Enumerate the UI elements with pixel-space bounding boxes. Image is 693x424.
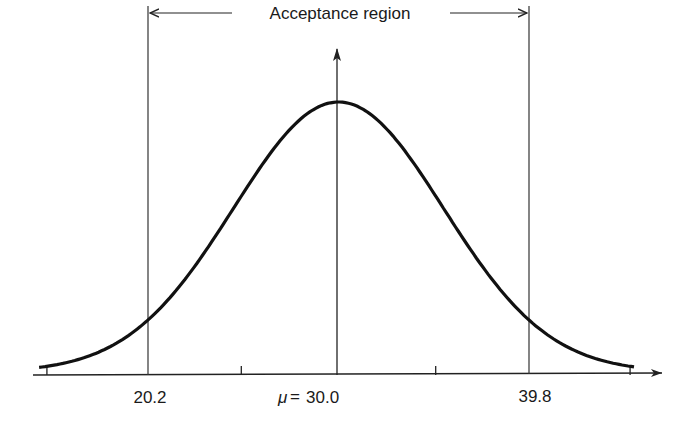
mean-label: μ = 30.0 (277, 387, 339, 407)
lower-bound-label: 20.2 (133, 388, 166, 407)
mean-equals: = (290, 387, 300, 406)
normal-distribution-chart: Acceptance region 20.2 μ = 30.0 39.8 (0, 0, 693, 424)
acceptance-region-label: Acceptance region (270, 4, 411, 23)
mean-value: 30.0 (306, 388, 339, 407)
upper-bound-label: 39.8 (518, 387, 551, 406)
mean-symbol: μ (277, 388, 288, 407)
x-axis (33, 373, 662, 375)
